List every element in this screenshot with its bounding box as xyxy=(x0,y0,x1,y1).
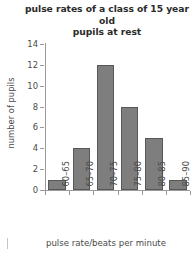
y-axis-tick-label: 6 xyxy=(16,123,38,131)
corner-mark xyxy=(7,238,8,249)
x-axis-tick-label: 70–75 xyxy=(109,161,119,197)
y-axis-tick xyxy=(40,190,44,191)
y-axis-tick-label: 2 xyxy=(16,165,38,173)
y-axis-tick-label: 8 xyxy=(16,103,38,111)
y-axis-tick-label: 14 xyxy=(16,40,38,48)
y-axis-tick xyxy=(40,86,44,87)
x-axis-tick-label: 75–80 xyxy=(133,161,143,197)
y-axis-tick xyxy=(40,169,44,170)
chart-title: pulse rates of a class of 15 year old pu… xyxy=(22,3,192,38)
y-axis-title: number of pupils xyxy=(6,65,16,161)
y-axis-tick xyxy=(40,127,44,128)
y-axis-tick xyxy=(40,148,44,149)
chart-title-line-2: pupils at rest xyxy=(22,26,192,38)
x-axis-tick-label: 80–85 xyxy=(157,161,167,197)
y-axis-tick xyxy=(40,107,44,108)
y-axis-tick xyxy=(40,65,44,66)
y-axis-tick xyxy=(40,44,44,45)
x-axis-tick-label: 85–90 xyxy=(181,161,191,197)
y-axis-tick-label: 12 xyxy=(16,61,38,69)
chart-title-line-1: pulse rates of a class of 15 year old xyxy=(22,3,192,26)
x-axis-title: pulse rate/beats per minute xyxy=(20,238,192,248)
x-axis-tick-label: 65–70 xyxy=(85,161,95,197)
y-axis-tick-label: 4 xyxy=(16,144,38,152)
y-axis-tick-label: 10 xyxy=(16,82,38,90)
y-axis-tick-label: 0 xyxy=(16,186,38,194)
x-axis-tick-label: 60–65 xyxy=(61,161,71,197)
x-axis-tick xyxy=(45,191,46,195)
